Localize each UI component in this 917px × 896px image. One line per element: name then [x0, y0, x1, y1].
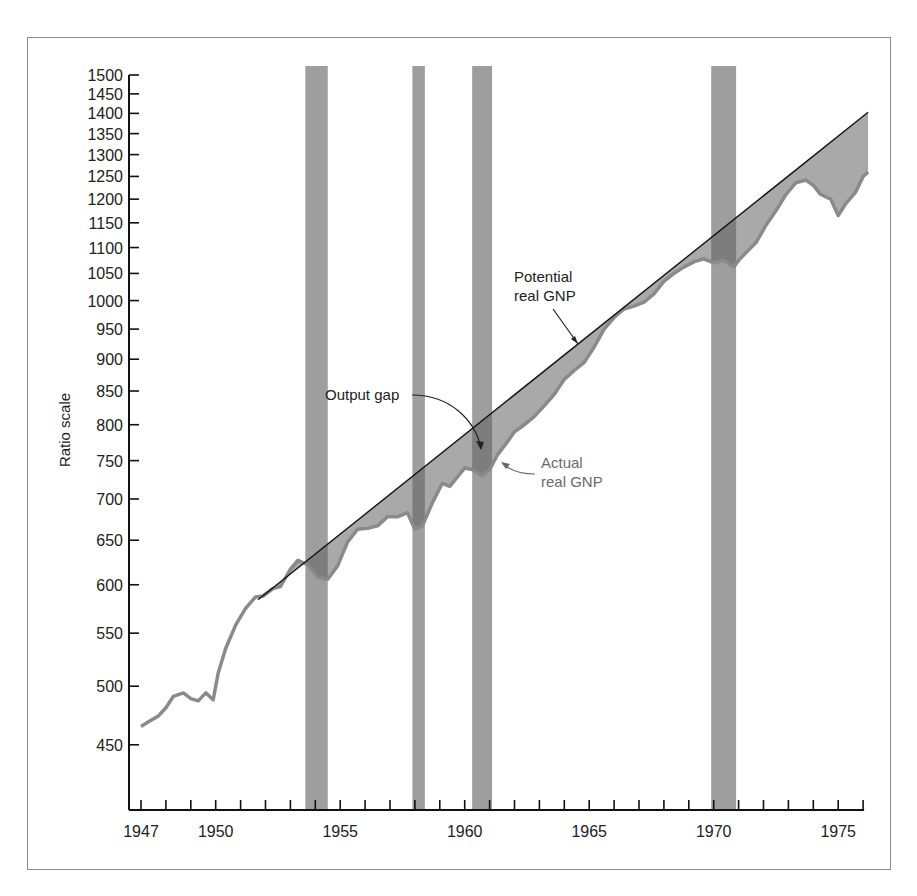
y-tick-label: 1250 — [87, 168, 123, 185]
y-tick-label: 750 — [96, 453, 123, 470]
annotation-gap-label: Output gap — [325, 386, 399, 403]
x-tick-label: 1947 — [123, 823, 159, 840]
y-tick-label: 1100 — [89, 240, 124, 257]
x-tick-label: 1960 — [447, 823, 483, 840]
arrowhead-icon — [571, 336, 578, 344]
x-tick-label: 1975 — [820, 823, 856, 840]
y-tick-label: 650 — [96, 532, 123, 549]
y-tick-label: 550 — [96, 625, 123, 642]
y-tick-label: 1350 — [87, 126, 123, 143]
recession-bar — [711, 66, 736, 810]
recession-bar — [412, 66, 424, 810]
y-tick-label: 450 — [96, 737, 123, 754]
x-tick-label: 1955 — [322, 823, 358, 840]
y-tick-label: 1150 — [89, 215, 124, 232]
y-tick-label: 1200 — [87, 191, 123, 208]
y-tick-label: 800 — [96, 417, 123, 434]
x-tick-label: 1970 — [696, 823, 732, 840]
recession-bars — [305, 66, 736, 810]
y-tick-label: 900 — [96, 351, 123, 368]
potential-gnp-line — [258, 112, 868, 600]
y-tick-label: 1400 — [87, 105, 123, 122]
annotation-actual-line2: real GNP — [541, 473, 603, 490]
recession-bar — [305, 66, 327, 810]
y-tick-label: 600 — [96, 577, 123, 594]
x-tick-label: 1950 — [198, 823, 234, 840]
annotation-actual: Actual real GNP — [501, 454, 603, 490]
y-tick-label: 1300 — [87, 147, 123, 164]
y-tick-label: 500 — [96, 678, 123, 695]
y-tick-label: 1450 — [87, 86, 123, 103]
y-tick-label: 1000 — [87, 293, 123, 310]
x-tick-label: 1965 — [571, 823, 607, 840]
actual-gnp-line — [141, 172, 868, 727]
y-tick-label: 1050 — [87, 265, 123, 282]
y-axis-label: Ratio scale — [56, 393, 73, 467]
annotation-potential-line2: real GNP — [514, 287, 576, 304]
gnp-chart: 1500145014001350130012501200115011001050… — [0, 0, 917, 896]
annotation-potential: Potential real GNP — [514, 268, 578, 344]
y-tick-label: 950 — [96, 321, 123, 338]
y-tick-label: 1500 — [87, 67, 123, 84]
y-tick-label: 850 — [96, 383, 123, 400]
annotation-potential-line1: Potential — [514, 268, 572, 285]
annotation-actual-line1: Actual — [541, 454, 583, 471]
y-tick-label: 700 — [96, 491, 123, 508]
